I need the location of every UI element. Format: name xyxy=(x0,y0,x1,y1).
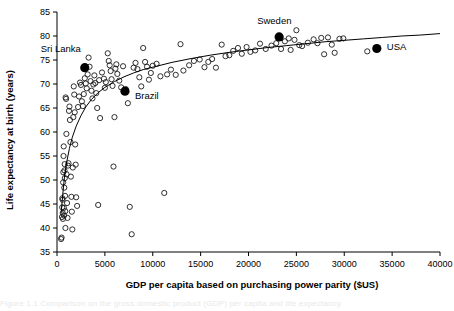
scatter-point xyxy=(97,115,102,120)
scatter-point xyxy=(75,104,80,109)
x-tick-label: 30000 xyxy=(332,259,357,269)
scatter-point xyxy=(71,84,76,89)
scatter-point xyxy=(146,77,151,82)
y-tick-label: 60 xyxy=(40,127,50,137)
scatter-point xyxy=(112,115,117,120)
highlighted-point-sweden xyxy=(275,32,284,41)
highlighted-point-brazil xyxy=(120,87,129,96)
scatter-point xyxy=(137,75,142,80)
highlighted-point-sri-lanka xyxy=(80,63,89,72)
scatter-point xyxy=(105,51,110,56)
scatter-point xyxy=(67,117,72,122)
scatter-point xyxy=(181,68,186,73)
scatter-point xyxy=(158,74,163,79)
scatter-point xyxy=(79,99,84,104)
scatter-point xyxy=(278,46,283,51)
scatter-point xyxy=(165,72,170,77)
scatter-point xyxy=(213,65,218,70)
y-tick-label: 55 xyxy=(40,151,50,161)
scatter-point xyxy=(99,70,104,75)
scatter-point xyxy=(85,72,90,77)
scatter-point xyxy=(210,56,215,61)
scatter-point xyxy=(292,37,297,42)
scatter-point xyxy=(129,232,134,237)
x-tick-label: 40000 xyxy=(427,259,452,269)
scatter-point xyxy=(305,40,310,45)
scatter-point xyxy=(191,58,196,63)
scatter-point xyxy=(257,41,262,46)
figure-container: 3540455055606570758085 05000100001500020… xyxy=(0,0,454,311)
x-axis-ticks: 0500010000150002000025000300003500040000 xyxy=(54,252,452,269)
scatter-point xyxy=(125,101,130,106)
x-axis-title: GDP per capita based on purchasing power… xyxy=(126,279,379,290)
scatter-point xyxy=(75,203,80,208)
scatter-point xyxy=(70,227,75,232)
scatter-point xyxy=(61,144,66,149)
scatter-point xyxy=(64,200,69,205)
y-tick-label: 65 xyxy=(40,103,50,113)
scatter-point xyxy=(325,35,330,40)
scatter-point xyxy=(115,71,120,76)
axes-group xyxy=(57,12,440,252)
scatter-point xyxy=(235,45,240,50)
scatter-point xyxy=(365,49,370,54)
point-label-usa: USA xyxy=(387,41,407,52)
scatter-point xyxy=(109,77,114,82)
scatter-point xyxy=(73,142,78,147)
scatter-point xyxy=(63,225,68,230)
y-tick-label: 45 xyxy=(40,199,50,209)
scatter-point xyxy=(294,28,299,33)
scatter-point xyxy=(239,51,244,56)
y-tick-label: 70 xyxy=(40,79,50,89)
scatter-point xyxy=(322,52,327,57)
x-tick-label: 5000 xyxy=(95,259,115,269)
x-tick-label: 35000 xyxy=(380,259,405,269)
cut-off-caption: Figure 1.1 Comparison on the gross domes… xyxy=(0,299,454,311)
point-label-sri-lanka: Sri Lanka xyxy=(41,43,82,54)
scatter-points-group xyxy=(59,28,370,242)
scatter-point xyxy=(288,47,293,52)
y-axis-title: Life expectancy at birth (years) xyxy=(4,70,15,210)
scatter-point xyxy=(72,110,77,115)
scatter-point xyxy=(64,131,69,136)
scatter-point xyxy=(168,67,173,72)
scatter-point xyxy=(139,84,144,89)
scatter-point xyxy=(178,42,183,47)
scatter-point xyxy=(86,55,91,60)
scatter-point xyxy=(80,103,85,108)
x-tick-label: 15000 xyxy=(188,259,213,269)
scatter-point xyxy=(133,60,138,65)
scatter-point xyxy=(319,35,324,40)
scatter-point xyxy=(187,63,192,68)
scatter-chart: 3540455055606570758085 05000100001500020… xyxy=(0,0,454,311)
y-tick-label: 85 xyxy=(40,7,50,17)
scatter-point xyxy=(329,42,334,47)
scatter-point xyxy=(68,174,73,179)
scatter-point xyxy=(231,48,236,53)
scatter-point xyxy=(69,209,74,214)
point-label-brazil: Brazil xyxy=(135,90,159,101)
scatter-point xyxy=(148,70,153,75)
scatter-point xyxy=(95,105,100,110)
scatter-point xyxy=(61,153,66,158)
x-tick-label: 20000 xyxy=(236,259,261,269)
scatter-point xyxy=(332,50,337,55)
scatter-point xyxy=(120,64,125,69)
scatter-point xyxy=(141,45,146,50)
highlighted-point-usa xyxy=(372,44,381,53)
scatter-point xyxy=(96,202,101,207)
scatter-point xyxy=(162,190,167,195)
scatter-point xyxy=(73,162,78,167)
scatter-point xyxy=(81,91,86,96)
scatter-point xyxy=(244,44,249,49)
scatter-point xyxy=(111,164,116,169)
scatter-point xyxy=(127,204,132,209)
scatter-point xyxy=(92,73,97,78)
scatter-point xyxy=(202,65,207,70)
y-tick-label: 80 xyxy=(40,31,50,41)
scatter-point xyxy=(62,185,67,190)
scatter-point xyxy=(219,42,224,47)
y-tick-label: 35 xyxy=(40,247,50,257)
scatter-point xyxy=(70,165,75,170)
y-tick-label: 50 xyxy=(40,175,50,185)
